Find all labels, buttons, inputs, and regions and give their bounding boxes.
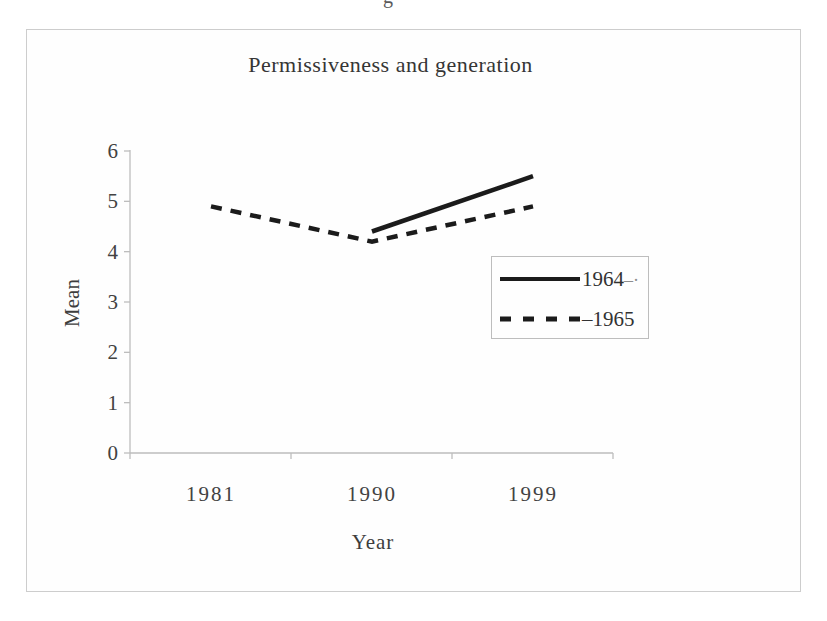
x-tick-label: 1999 xyxy=(488,481,578,507)
legend-entry-1964: 1964–· xyxy=(498,265,646,293)
scanned-page: g Permissiveness and generation 0123456 … xyxy=(0,0,827,621)
y-axis-title: Mean xyxy=(60,243,86,363)
legend-label-1964: 1964–· xyxy=(582,265,639,293)
y-tick-label: 1 xyxy=(78,390,118,416)
legend-label-faint-suffix: –· xyxy=(624,270,639,290)
series-line-dashed xyxy=(211,206,533,241)
cropped-text-fragment: g xyxy=(383,0,409,9)
y-tick-label: 5 xyxy=(78,188,118,214)
legend-dashed-line-sample xyxy=(498,305,582,333)
legend-solid-line-sample xyxy=(498,265,582,293)
x-tick-label: 1990 xyxy=(327,481,417,507)
legend: 1964–· –1965 xyxy=(491,256,649,339)
legend-label-text: 1964 xyxy=(582,267,624,291)
chart-frame: Permissiveness and generation 0123456 19… xyxy=(26,29,801,592)
y-tick-label: 6 xyxy=(78,138,118,164)
x-axis-title: Year xyxy=(313,530,433,555)
x-tick-label: 1981 xyxy=(166,481,256,507)
legend-entry-1965: –1965 xyxy=(498,305,646,333)
cropped-letter: g xyxy=(383,0,409,8)
legend-label-1965: –1965 xyxy=(582,305,635,333)
legend-label-text: –1965 xyxy=(582,307,635,331)
y-tick-label: 0 xyxy=(78,440,118,466)
